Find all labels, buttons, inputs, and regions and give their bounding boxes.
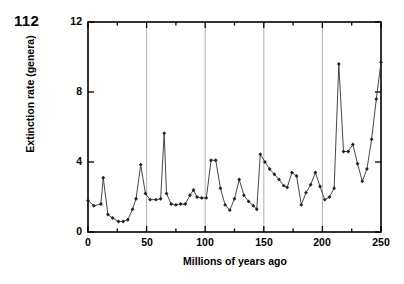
data-point-marker [174, 203, 178, 207]
data-point-marker [365, 167, 369, 171]
data-point-marker [332, 186, 336, 190]
data-point-marker [134, 197, 138, 201]
data-point-marker [162, 131, 166, 135]
data-point-marker [313, 171, 317, 175]
data-point-marker [342, 150, 346, 154]
data-point-marker [139, 163, 143, 167]
data-point-marker [304, 191, 308, 195]
data-point-marker [214, 158, 218, 162]
data-point-marker [165, 192, 169, 196]
data-point-marker [99, 202, 103, 206]
data-point-marker [360, 179, 364, 183]
data-point-marker [131, 207, 135, 211]
data-point-marker [183, 202, 187, 206]
data-point-marker [209, 158, 213, 162]
data-point-marker [200, 196, 204, 200]
data-point-marker [356, 162, 360, 166]
data-point-marker [121, 220, 125, 224]
data-point-marker [169, 202, 173, 206]
data-point-marker [309, 183, 313, 187]
extinction-rate-chart: Extinction rate (genera) Millions of yea… [0, 0, 404, 284]
data-point-marker [370, 137, 374, 141]
plot-area [0, 0, 404, 284]
data-point-marker [299, 203, 303, 207]
data-point-marker [323, 198, 327, 202]
data-point-marker [328, 195, 332, 199]
data-point-marker [126, 218, 130, 222]
data-point-marker [195, 195, 199, 199]
data-point-marker [285, 185, 289, 189]
data-point-marker [101, 176, 105, 180]
data-point-marker [258, 152, 262, 156]
data-point-marker [337, 62, 341, 66]
data-point-marker [159, 197, 163, 201]
data-point-marker [237, 178, 241, 182]
data-point-marker [318, 185, 322, 189]
data-point-marker [154, 198, 158, 202]
data-point-marker [233, 197, 237, 201]
data-point-marker [219, 186, 223, 190]
data-point-marker [374, 97, 378, 101]
data-point-marker [379, 60, 383, 64]
data-point-marker [117, 220, 121, 224]
data-point-marker [179, 202, 183, 206]
